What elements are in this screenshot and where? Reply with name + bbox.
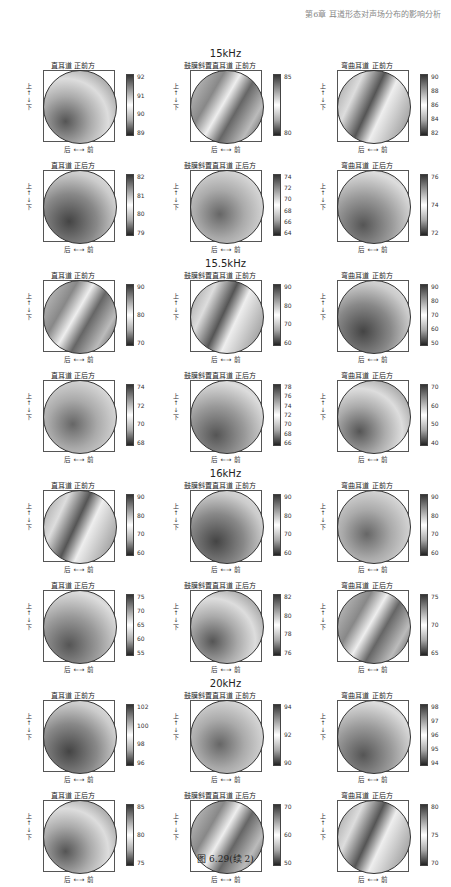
x-axis-label: 后 ←→ 前 — [190, 774, 262, 784]
colorbar — [420, 174, 428, 236]
y-axis-label: 上↑↓下 — [318, 82, 328, 110]
colorbar-tick: 95 — [431, 746, 439, 752]
y-axis-label: 上↑↓下 — [24, 392, 34, 420]
colorbar-tick: 90 — [431, 284, 439, 290]
x-axis-label: 后 ←→ 前 — [337, 244, 409, 254]
colorbar-tick: 82 — [137, 174, 145, 180]
colorbar-tick: 90 — [137, 284, 145, 290]
group-title: 16kHz — [0, 468, 451, 479]
colorbar-ticks: 82807876 — [284, 594, 306, 656]
colorbar-tick: 65 — [431, 650, 439, 656]
colorbar-tick: 60 — [431, 403, 439, 409]
heatmap-disk — [190, 700, 264, 774]
y-axis-label: 上↑↓下 — [171, 82, 181, 110]
heatmap-panel: 鼓膜斜置直耳道 正前方上↑↓下后 ←→ 前90807060 — [165, 480, 305, 580]
x-axis-label: 后 ←→ 前 — [337, 454, 409, 464]
heatmap-disk — [337, 700, 411, 774]
colorbar-tick: 78 — [284, 631, 292, 637]
y-axis-label: 上↑↓下 — [171, 392, 181, 420]
colorbar-tick: 80 — [137, 832, 145, 838]
colorbar-tick: 85 — [284, 74, 292, 80]
panel-title: 弯曲耳道 正前方 — [312, 270, 422, 280]
colorbar-ticks: 949290 — [284, 704, 306, 766]
y-axis-label: 上↑↓下 — [318, 502, 328, 530]
panel-title: 直耳道 正后方 — [18, 370, 128, 380]
heatmap-panel: 鼓膜斜置直耳道 正前方上↑↓下后 ←→ 前90807060 — [165, 270, 305, 370]
colorbar-tick: 76 — [284, 393, 292, 399]
heatmap-panel: 弯曲耳道 正后方上↑↓下后 ←→ 前807570 — [312, 790, 451, 887]
colorbar — [273, 704, 281, 766]
panel-title: 弯曲耳道 正后方 — [312, 790, 422, 800]
colorbar-tick: 97 — [431, 718, 439, 724]
colorbar-ticks: 82818079 — [137, 174, 159, 236]
heatmap-panel: 弯曲耳道 正前方上↑↓下后 ←→ 前9088868482 — [312, 60, 451, 160]
heatmap-panel: 弯曲耳道 正后方上↑↓下后 ←→ 前70605040 — [312, 370, 451, 470]
colorbar — [126, 74, 134, 136]
x-axis-label: 后 ←→ 前 — [337, 564, 409, 574]
colorbar-tick: 74 — [284, 174, 292, 180]
colorbar-tick: 70 — [284, 321, 292, 327]
colorbar-ticks: 767472 — [431, 174, 451, 236]
page-header: 第6章 耳道形态对声场分布的影响分析 — [0, 8, 451, 19]
y-axis-label: 上↑↓下 — [171, 812, 181, 840]
x-axis-label: 后 ←→ 前 — [190, 454, 262, 464]
heatmap-panel: 鼓膜斜置直耳道 正后方上↑↓下后 ←→ 前82807876 — [165, 580, 305, 680]
colorbar-tick: 74 — [284, 403, 292, 409]
panel-title: 直耳道 正后方 — [18, 160, 128, 170]
colorbar-ticks: 747270686664 — [284, 174, 306, 236]
colorbar-tick: 90 — [137, 111, 145, 117]
colorbar — [273, 74, 281, 136]
colorbar — [420, 74, 428, 136]
panel-title: 弯曲耳道 正后方 — [312, 580, 422, 590]
colorbar-tick: 72 — [137, 403, 145, 409]
heatmap-disk — [190, 590, 264, 664]
colorbar-tick: 92 — [137, 74, 145, 80]
heatmap-disk — [43, 490, 117, 564]
colorbar-tick: 55 — [137, 650, 145, 656]
panel-title: 鼓膜斜置直耳道 正前方 — [165, 690, 275, 700]
x-axis-label: 后 ←→ 前 — [43, 874, 115, 884]
x-axis-label: 后 ←→ 前 — [43, 454, 115, 464]
colorbar-tick: 80 — [284, 130, 292, 136]
panel-title: 鼓膜斜置直耳道 正前方 — [165, 480, 275, 490]
colorbar-ticks: 9088868482 — [431, 74, 451, 136]
colorbar-tick: 82 — [284, 594, 292, 600]
panel-title: 弯曲耳道 正后方 — [312, 370, 422, 380]
colorbar-ticks: 90807060 — [284, 284, 306, 346]
colorbar-ticks: 7570656055 — [137, 594, 159, 656]
heatmap-panel: 鼓膜斜置直耳道 正前方上↑↓下后 ←→ 前949290 — [165, 690, 305, 790]
panel-title: 弯曲耳道 正后方 — [312, 160, 422, 170]
heatmap-disk — [43, 280, 117, 354]
x-axis-label: 后 ←→ 前 — [337, 874, 409, 884]
colorbar-tick: 70 — [431, 531, 439, 537]
colorbar-tick: 79 — [137, 230, 145, 236]
x-axis-label: 后 ←→ 前 — [337, 354, 409, 364]
colorbar-tick: 70 — [284, 531, 292, 537]
colorbar-tick: 88 — [431, 88, 439, 94]
colorbar-tick: 80 — [137, 513, 145, 519]
y-axis-label: 上↑↓下 — [24, 712, 34, 740]
heatmap-panel: 直耳道 正前方上↑↓下后 ←→ 前1021009896 — [18, 690, 158, 790]
colorbar — [126, 494, 134, 556]
heatmap-disk — [190, 380, 264, 454]
panel-title: 鼓膜斜置直耳道 正后方 — [165, 160, 275, 170]
x-axis-label: 后 ←→ 前 — [337, 664, 409, 674]
heatmap-disk — [337, 280, 411, 354]
colorbar-tick: 70 — [284, 421, 292, 427]
colorbar-tick: 80 — [431, 298, 439, 304]
x-axis-label: 后 ←→ 前 — [43, 664, 115, 674]
heatmap-panel: 鼓膜斜置直耳道 正后方上↑↓下后 ←→ 前78767472706866 — [165, 370, 305, 470]
colorbar-tick: 80 — [137, 312, 145, 318]
colorbar-tick: 70 — [431, 622, 439, 628]
heatmap-disk — [190, 490, 264, 564]
colorbar-tick: 98 — [137, 741, 145, 747]
heatmap-panel: 直耳道 正前方上↑↓下后 ←→ 前92919089 — [18, 60, 158, 160]
colorbar-tick: 78 — [284, 384, 292, 390]
y-axis-label: 上↑↓下 — [171, 602, 181, 630]
colorbar-tick: 70 — [284, 804, 292, 810]
panel-title: 直耳道 正后方 — [18, 790, 128, 800]
y-axis-label: 上↑↓下 — [24, 292, 34, 320]
colorbar-tick: 80 — [431, 513, 439, 519]
colorbar-tick: 90 — [284, 284, 292, 290]
colorbar-tick: 60 — [431, 550, 439, 556]
